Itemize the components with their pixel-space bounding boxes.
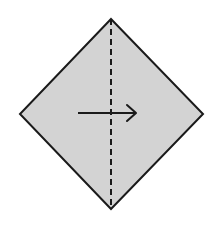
fold-diagram bbox=[0, 0, 224, 230]
fold-diagram-svg bbox=[0, 0, 224, 230]
